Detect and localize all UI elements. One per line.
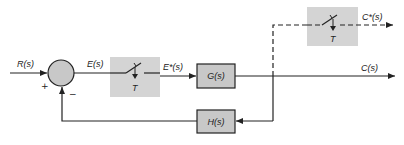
input-label: R(s) — [17, 59, 34, 69]
feedback-block-label: H(s) — [208, 117, 225, 127]
sampled-output-label: C*(s) — [362, 12, 383, 22]
minus-sign: − — [69, 89, 77, 99]
sampled-error-label: E*(s) — [163, 62, 183, 72]
forward-block-label: G(s) — [207, 71, 225, 81]
output-label: C(s) — [361, 63, 378, 73]
sampled-output-branch-line — [273, 25, 307, 76]
plus-sign: + — [41, 81, 49, 91]
block-diagram: R(s) + − E(s) T E*(s) G(s) C(s) H(s) — [0, 0, 404, 145]
error-label: E(s) — [87, 59, 104, 69]
summing-junction — [48, 60, 74, 86]
